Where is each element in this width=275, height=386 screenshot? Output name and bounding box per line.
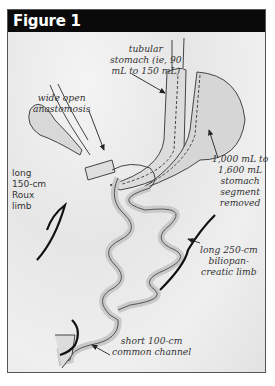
label-tubular-stomach: tubular stomach (ie, 90 mL to 150 mL) xyxy=(110,43,182,76)
label-line: limb xyxy=(12,201,46,212)
anastomosis-arrow xyxy=(89,111,104,150)
label-line: stomach (ie, 90 xyxy=(110,54,182,65)
label-stomach-removed: 1,000 mL to 1,600 mL stomach segment rem… xyxy=(212,153,268,208)
label-line: common channel xyxy=(112,346,191,357)
label-roux-limb: long 150-cm Roux limb xyxy=(12,168,46,212)
label-line: Roux xyxy=(12,190,46,201)
label-line: removed xyxy=(212,197,268,208)
label-line: biliopan- xyxy=(200,255,258,266)
label-line: creatic limb xyxy=(200,266,258,277)
label-line: anastomosis xyxy=(33,103,90,114)
biliopancreatic-limb xyxy=(118,188,181,310)
label-line: 1,600 mL xyxy=(212,164,268,175)
label-anastomosis: wide open anastomosis xyxy=(33,92,90,114)
label-line: mL to 150 mL) xyxy=(110,65,182,76)
label-line: long xyxy=(12,168,46,179)
label-line: stomach xyxy=(212,175,268,186)
label-line: long 250-cm xyxy=(200,244,258,255)
tubular-stomach-arrow xyxy=(132,74,165,93)
common-channel-arrow xyxy=(92,345,110,355)
roux-limb-brace xyxy=(37,205,65,260)
label-line: segment xyxy=(212,186,268,197)
duodenal-stump xyxy=(85,160,115,180)
label-line: 1,000 mL to xyxy=(212,153,268,164)
label-line: wide open xyxy=(33,92,90,103)
label-line: short 100-cm xyxy=(112,335,191,346)
label-biliopancreatic-limb: long 250-cm biliopan- creatic limb xyxy=(200,244,258,277)
label-line: 150-cm xyxy=(12,179,46,190)
label-line: tubular xyxy=(110,43,182,54)
label-common-channel: short 100-cm common channel xyxy=(112,335,191,357)
